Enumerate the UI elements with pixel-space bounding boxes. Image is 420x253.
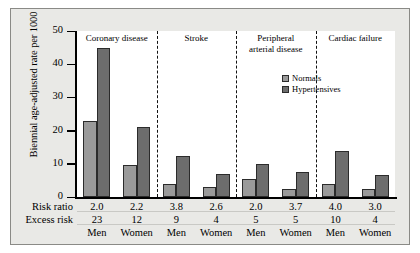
excess-risk-row-label: Excess risk <box>11 214 73 225</box>
bar-normals-3 <box>203 187 217 197</box>
panel-title-2: Peripheralarterial disease <box>236 33 316 54</box>
y-tick-label: 30 <box>39 90 63 101</box>
y-tick-mark <box>67 31 75 33</box>
y-tick-mark <box>67 163 75 165</box>
excess-risk-value: 5 <box>276 214 316 225</box>
bar-hypertensives-2 <box>176 156 190 198</box>
excess-risk-value: 9 <box>157 214 197 225</box>
panel-title-3: Cardiac failure <box>316 33 396 44</box>
y-tick-mark <box>67 130 75 132</box>
y-tick-label: 10 <box>39 157 63 168</box>
risk-ratio-value: 3.7 <box>276 201 316 212</box>
risk-ratio-value: 2.6 <box>196 201 236 212</box>
excess-risk-value: 4 <box>196 214 236 225</box>
y-tick-label: 20 <box>39 124 63 135</box>
risk-ratio-value: 2.2 <box>117 201 157 212</box>
sex-label: Women <box>196 227 236 238</box>
y-tick-label: 0 <box>39 190 63 201</box>
bar-hypertensives-4 <box>256 164 270 197</box>
excess-risk-value: 10 <box>316 214 356 225</box>
panel-title-line: Peripheral <box>257 33 294 43</box>
bar-hypertensives-7 <box>375 175 389 197</box>
bar-normals-5 <box>282 189 296 197</box>
risk-ratio-value: 3.8 <box>157 201 197 212</box>
y-axis-title: Biennial age-adjusted rate per 1000 <box>28 0 39 170</box>
y-tick-mark <box>67 197 75 199</box>
bar-hypertensives-6 <box>335 151 349 197</box>
panel-divider <box>236 31 237 197</box>
legend-swatch-normals-icon <box>282 75 289 82</box>
bar-normals-2 <box>163 184 177 197</box>
sex-label: Women <box>117 227 157 238</box>
bar-normals-4 <box>242 179 256 197</box>
panel-title-line: Coronary disease <box>86 33 148 43</box>
legend-item-hypertensives: Hypertensives <box>282 84 341 95</box>
bar-hypertensives-5 <box>296 172 310 197</box>
figure-frame: Biennial age-adjusted rate per 1000 0102… <box>10 8 410 245</box>
legend-label-normals: Normals <box>292 73 321 84</box>
y-tick-label: 50 <box>39 24 63 35</box>
bar-hypertensives-3 <box>216 174 230 197</box>
sex-label: Women <box>355 227 395 238</box>
risk-ratio-value: 4.0 <box>316 201 356 212</box>
bar-hypertensives-1 <box>137 127 151 197</box>
bar-normals-6 <box>322 184 336 197</box>
sex-label: Men <box>157 227 197 238</box>
panel-title-line: Cardiac failure <box>328 33 382 43</box>
x-axis-line <box>75 197 397 199</box>
sex-label: Women <box>276 227 316 238</box>
risk-ratio-value: 2.0 <box>236 201 276 212</box>
excess-risk-value: 4 <box>355 214 395 225</box>
panel-title-0: Coronary disease <box>77 33 157 44</box>
excess-risk-value: 23 <box>77 214 117 225</box>
panel-title-line: Stroke <box>185 33 209 43</box>
risk-ratio-value: 2.0 <box>77 201 117 212</box>
legend-swatch-hypertensives-icon <box>282 86 289 93</box>
bar-normals-1 <box>123 165 137 197</box>
y-tick-mark <box>67 97 75 99</box>
legend-label-hypertensives: Hypertensives <box>292 84 341 95</box>
panel-divider <box>316 31 317 197</box>
sex-label: Men <box>236 227 276 238</box>
sex-label: Men <box>316 227 356 238</box>
risk-ratio-value: 3.0 <box>355 201 395 212</box>
legend-item-normals: Normals <box>282 73 341 84</box>
sex-label: Men <box>77 227 117 238</box>
bar-hypertensives-0 <box>97 48 111 197</box>
panel-divider <box>157 31 158 197</box>
excess-risk-value: 12 <box>117 214 157 225</box>
panel-title-line: arterial disease <box>249 44 303 54</box>
plot-area: Coronary diseaseStrokePeripheralarterial… <box>77 31 395 197</box>
risk-ratio-row-label: Risk ratio <box>11 201 73 212</box>
legend: Normals Hypertensives <box>282 73 341 95</box>
panel-title-1: Stroke <box>157 33 237 44</box>
bar-normals-0 <box>83 121 97 197</box>
bar-normals-7 <box>362 189 376 197</box>
y-tick-mark <box>67 64 75 66</box>
y-tick-label: 40 <box>39 57 63 68</box>
excess-risk-value: 5 <box>236 214 276 225</box>
